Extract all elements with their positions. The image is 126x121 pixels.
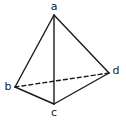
vertex-label-c: c — [51, 106, 57, 119]
edge-ad — [54, 15, 109, 73]
diagram-svg: a b c d — [0, 0, 126, 121]
vertex-label-a: a — [51, 0, 58, 13]
edges-group — [15, 15, 109, 104]
edge-bc — [15, 87, 54, 104]
edge-bd — [15, 73, 109, 87]
edge-ab — [15, 15, 54, 87]
labels-group: a b c d — [5, 0, 120, 119]
vertex-label-b: b — [5, 80, 12, 93]
vertex-label-d: d — [113, 64, 120, 77]
tetrahedron-diagram: a b c d — [0, 0, 126, 121]
